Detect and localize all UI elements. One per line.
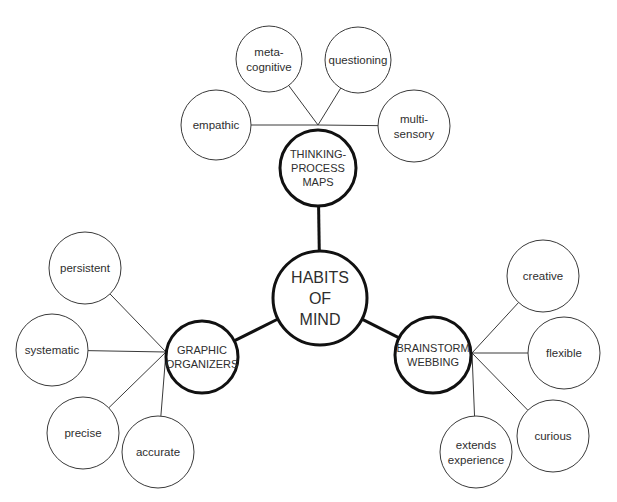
connector-systematic (88, 351, 166, 352)
node-flexible-label: flexible (546, 347, 582, 359)
node-multi-sensory-label: sensory (394, 128, 435, 140)
node-precise: precise (47, 397, 119, 469)
node-creative-label: creative (523, 270, 563, 282)
node-multi-sensory: multi-sensory (378, 90, 450, 162)
node-graphic-organizers-circle (166, 321, 238, 393)
node-accurate-label: accurate (136, 446, 180, 458)
node-thinking-process-maps: THINKING-PROCESSMAPS (280, 130, 356, 206)
node-systematic-label: systematic (25, 344, 80, 356)
connector-curious (472, 353, 528, 410)
connector-brainstorm-webbing (362, 319, 399, 338)
node-extends-experience-circle (440, 416, 512, 488)
node-meta-cognitive-label: cognitive (246, 61, 291, 73)
node-thinking-process-maps-label: MAPS (302, 176, 333, 188)
node-graphic-organizers-label: ORGANIZERS (166, 358, 239, 370)
node-precise-label: precise (64, 427, 101, 439)
connector-thinking-process-maps (319, 206, 320, 251)
node-accurate: accurate (122, 416, 194, 488)
concept-nodes: HABITSOFMINDTHINKING-PROCESSMAPSempathic… (16, 26, 600, 488)
node-habits-of-mind: HABITSOFMIND (273, 251, 367, 345)
connector-precise (109, 352, 166, 408)
node-extends-experience-label: experience (448, 454, 504, 466)
connector-questioning (318, 88, 341, 125)
node-graphic-organizers-label: GRAPHIC (177, 344, 227, 356)
node-habits-of-mind-label: OF (309, 290, 331, 307)
connector-creative (472, 302, 519, 353)
connector-multi-sensory (318, 125, 378, 126)
node-meta-cognitive: meta-cognitive (236, 26, 302, 92)
node-extends-experience: extendsexperience (440, 416, 512, 488)
node-thinking-process-maps-label: THINKING- (290, 148, 347, 160)
node-thinking-process-maps-label: PROCESS (291, 162, 345, 174)
node-habits-of-mind-label: MIND (300, 311, 341, 328)
connector-persistent (110, 294, 166, 352)
node-curious: curious (517, 400, 589, 472)
node-empathic: empathic (181, 90, 251, 160)
node-multi-sensory-circle (378, 90, 450, 162)
node-brainstorm-webbing-label: BRAINSTORM (396, 342, 469, 354)
node-persistent-label: persistent (60, 262, 111, 274)
node-curious-label: curious (534, 430, 571, 442)
connector-meta-cognitive (289, 85, 318, 125)
node-brainstorm-webbing: BRAINSTORMWEBBING (395, 317, 471, 393)
node-empathic-label: empathic (193, 119, 240, 131)
node-multi-sensory-label: multi- (400, 113, 428, 125)
node-meta-cognitive-label: meta- (254, 46, 284, 58)
node-meta-cognitive-circle (236, 26, 302, 92)
node-graphic-organizers: GRAPHICORGANIZERS (166, 321, 239, 393)
node-flexible: flexible (528, 317, 600, 389)
node-brainstorm-webbing-circle (395, 317, 471, 393)
node-persistent: persistent (49, 232, 121, 304)
node-habits-of-mind-label: HABITS (291, 269, 349, 286)
habits-of-mind-concept-map: HABITSOFMINDTHINKING-PROCESSMAPSempathic… (0, 0, 617, 502)
connector-graphic-organizers (234, 319, 278, 341)
node-extends-experience-label: extends (456, 439, 497, 451)
node-questioning: questioning (325, 27, 391, 93)
node-creative: creative (507, 240, 579, 312)
node-systematic: systematic (16, 314, 88, 386)
connector-extends-experience (472, 353, 475, 416)
node-brainstorm-webbing-label: WEBBING (407, 356, 459, 368)
node-questioning-label: questioning (329, 54, 388, 66)
